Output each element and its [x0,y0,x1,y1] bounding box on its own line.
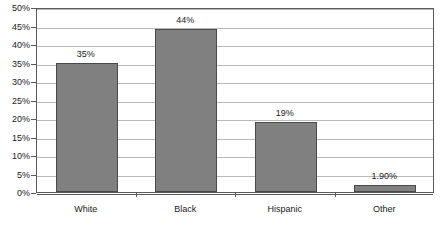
x-axis-category-label: Black [135,204,235,214]
bar [155,29,217,192]
y-axis-tick-label: 25% [0,97,30,106]
bar [56,63,118,193]
bar [354,185,416,192]
y-axis-tick-label: 30% [0,78,30,87]
y-axis-tick-mark [31,193,36,194]
y-axis-tick-label: 50% [0,4,30,13]
x-axis-category-label: Other [334,204,434,214]
y-axis-tick-label: 20% [0,115,30,124]
bar-chart: 0%5%10%15%20%25%30%35%40%45%50% 35%44%19… [0,0,440,234]
bar-value-label: 1.90% [344,172,424,181]
y-axis-tick-label: 45% [0,23,30,32]
x-axis-category-label: Hispanic [235,204,335,214]
gridline [37,9,433,10]
y-axis-tick-label: 40% [0,41,30,50]
bar-value-label: 44% [145,16,225,25]
y-axis-tick-label: 0% [0,189,30,198]
x-axis-tick-mark [335,193,336,197]
plot-area [36,8,434,193]
gridline [37,28,433,29]
y-axis-tick-label: 15% [0,134,30,143]
bar [255,122,317,192]
gridline [37,46,433,47]
bar-value-label: 19% [245,109,325,118]
y-axis-tick-label: 10% [0,152,30,161]
bar-value-label: 35% [46,50,126,59]
y-axis: 0%5%10%15%20%25%30%35%40%45%50% [0,0,36,234]
x-axis-category-label: White [36,204,136,214]
x-axis-tick-mark [235,193,236,197]
y-axis-tick-label: 5% [0,171,30,180]
x-axis-tick-mark [136,193,137,197]
y-axis-tick-label: 35% [0,60,30,69]
